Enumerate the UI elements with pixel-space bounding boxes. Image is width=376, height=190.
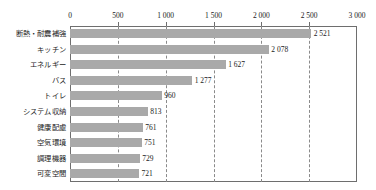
category-label-1: キッチン <box>0 45 66 54</box>
bar-7 <box>70 138 142 147</box>
category-label-2: エネルギー <box>0 60 66 69</box>
bar-value-2: 1 627 <box>228 60 245 69</box>
category-label-5: システム収納 <box>0 107 66 116</box>
category-label-0: 断熱・耐震補強 <box>0 29 66 38</box>
xtick-label-0: 0 <box>68 11 72 20</box>
bar-value-3: 1 277 <box>195 76 212 85</box>
bar-value-6: 761 <box>145 123 156 132</box>
category-label-3: バス <box>0 76 66 85</box>
bar-6 <box>70 123 143 132</box>
bar-9 <box>70 169 139 178</box>
bar-value-1: 2 078 <box>271 45 288 54</box>
bar-0 <box>70 29 311 38</box>
gridline-2500 <box>309 26 310 182</box>
bar-value-5: 813 <box>150 107 161 116</box>
category-label-7: 空気環境 <box>0 138 66 147</box>
bar-3 <box>70 76 192 85</box>
xtick-label-6: 3 000 <box>349 11 366 20</box>
xtick-label-3: 1 500 <box>205 11 222 20</box>
category-label-8: 調理機器 <box>0 154 66 163</box>
bar-value-8: 729 <box>142 154 153 163</box>
bar-2 <box>70 60 226 69</box>
category-label-9: 可変空間 <box>0 169 66 178</box>
bar-chart: 0 500 1 000 1 500 2 000 2 500 3 000 断熱・耐… <box>0 0 376 190</box>
xtick-label-5: 2 500 <box>301 11 318 20</box>
bar-value-4: 960 <box>164 91 175 100</box>
bar-value-0: 2 521 <box>314 29 331 38</box>
xtick-label-1: 500 <box>112 11 123 20</box>
bar-value-7: 751 <box>144 138 155 147</box>
xtick-label-2: 1 000 <box>157 11 174 20</box>
xtick-label-4: 2 000 <box>253 11 270 20</box>
bar-value-9: 721 <box>141 169 152 178</box>
bar-4 <box>70 91 162 100</box>
category-label-6: 健康配慮 <box>0 123 66 132</box>
bar-8 <box>70 154 140 163</box>
category-label-4: トイレ <box>0 91 66 100</box>
bar-1 <box>70 45 269 54</box>
bar-5 <box>70 107 148 116</box>
